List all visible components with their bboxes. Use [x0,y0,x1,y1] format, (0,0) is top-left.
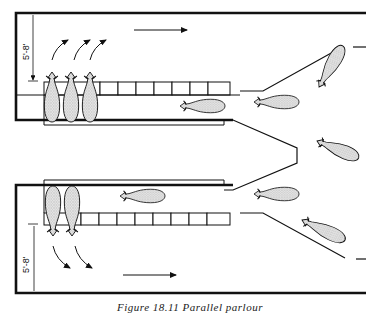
lower-dimension-label: 5'-8' [21,256,31,273]
upper-row: 5'-8' [16,13,366,190]
upper-cow-approach-1 [254,95,299,109]
upper-dimension: 5'-8' [21,15,38,81]
upper-cow-queue [180,99,225,113]
upper-cow-approach-3 [313,42,348,90]
center-divider [224,120,297,190]
lower-dimension: 5'-8' [21,224,38,291]
lower-cow-approach-1 [254,187,299,201]
lower-cows-in-stalls [45,186,79,236]
lower-cow-approach-2 [299,214,348,246]
lower-exit-arrows [53,246,92,268]
upper-exit-arrows [52,40,106,60]
parlour-diagram: 5'-8' [0,0,380,300]
upper-dimension-label: 5'-8' [21,43,31,60]
upper-cows-in-stalls [44,72,97,122]
figure-caption: Figure 18.11 Parallel parlour [0,301,380,313]
lower-cow-queue [120,189,165,203]
lower-row: 5'-8' [16,180,366,293]
upper-cow-approach-2 [314,135,361,164]
